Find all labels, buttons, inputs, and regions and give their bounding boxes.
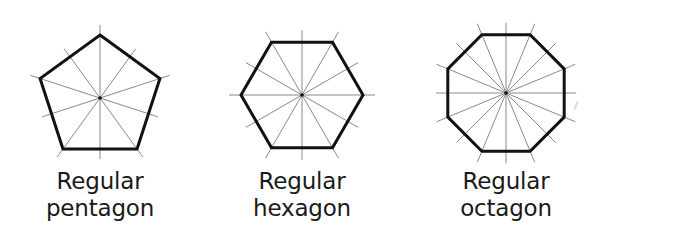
pentagon-center-point bbox=[98, 96, 102, 100]
hexagon-construction-line bbox=[246, 63, 302, 95]
hexagon-center-point bbox=[300, 93, 304, 97]
regular-pentagon-figure bbox=[31, 25, 170, 159]
octagon-label-line2: octagon bbox=[426, 195, 586, 222]
hexagon-construction-line bbox=[302, 95, 358, 127]
hexagon-label-line2: hexagon bbox=[222, 195, 382, 222]
hexagon-construction-line bbox=[302, 63, 358, 95]
hexagon-label-line1: Regular bbox=[222, 168, 382, 195]
octagon-label-line1: Regular bbox=[426, 168, 586, 195]
octagon-label: Regular octagon bbox=[426, 168, 586, 222]
hexagon-construction-line bbox=[246, 95, 302, 127]
hexagon-label: Regular hexagon bbox=[222, 168, 382, 222]
regular-octagon-figure bbox=[436, 23, 576, 163]
regular-hexagon-figure bbox=[229, 30, 375, 160]
pentagon-label-line2: pentagon bbox=[20, 195, 180, 222]
pentagon-label: Regular pentagon bbox=[20, 168, 180, 222]
octagon-center-point bbox=[504, 91, 508, 95]
pentagon-label-line1: Regular bbox=[20, 168, 180, 195]
